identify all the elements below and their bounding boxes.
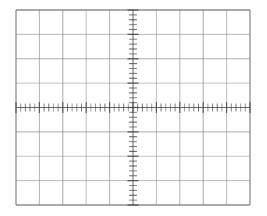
oscilloscope-graticule-figure [0,0,267,216]
graticule-canvas [0,0,267,216]
y-axis-tick-marks [128,10,139,205]
